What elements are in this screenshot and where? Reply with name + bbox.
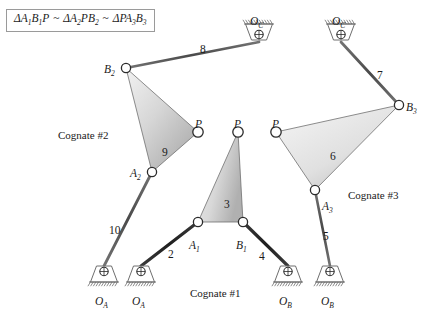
OB-right-hatch (333, 282, 336, 286)
OB-right-hatch (325, 282, 328, 286)
OB-right (314, 266, 345, 286)
OA-right-hatch (147, 282, 150, 286)
OA-right-hatch (149, 282, 152, 286)
OA-left-hatch (112, 282, 115, 286)
OB-right-hatch (314, 282, 317, 286)
joint-B2 (121, 63, 130, 72)
OB-right-hatch (322, 282, 325, 286)
OB-left-hatch (288, 282, 291, 286)
OB-left-hatch (272, 282, 275, 286)
OA-right-hatch (152, 282, 155, 286)
joint-A2-label: A2 (130, 168, 141, 182)
OA-left-hatch (110, 282, 113, 286)
OB-left-hatch (299, 282, 302, 286)
cognate-3-label: Cognate #3 (348, 190, 398, 201)
figure-canvas: ΔA1B1P ~ ΔA2PB2 ~ ΔPA3B3 2457810396OAOAO… (0, 0, 429, 315)
joint-B1 (238, 217, 247, 226)
joint-B2-label: B2 (104, 64, 115, 78)
OA-left-hatch (101, 282, 104, 286)
OB-left-hatch (275, 282, 278, 286)
similarity-formula: ΔA1B1P ~ ΔA2PB2 ~ ΔPA3B3 (6, 9, 155, 32)
joint-P2-label: P (195, 119, 202, 131)
link-5-label: 5 (323, 231, 329, 243)
OC-right-hatch (328, 20, 331, 24)
OB-right-hatch (338, 282, 341, 286)
OB-left-hatch (294, 282, 297, 286)
OA-right-label: OA (132, 296, 145, 310)
OA-left-hatch (91, 282, 94, 286)
OA-right-hatch (130, 282, 133, 286)
link-7-label: 7 (377, 70, 383, 82)
joint-B3 (394, 100, 403, 109)
link-7 (341, 42, 399, 105)
cognate-1-label: Cognate #1 (190, 288, 240, 299)
cognate-2-label: Cognate #2 (58, 130, 108, 141)
OA-left-label: OA (95, 296, 108, 310)
coupler-6 (276, 105, 399, 190)
OA-left-hatch (88, 282, 91, 286)
joint-P3-label: P (272, 119, 279, 131)
OB-right-hatch (336, 282, 339, 286)
OA-left-hatch (104, 282, 107, 286)
coupler-3-label: 3 (224, 199, 230, 211)
OA-left-hatch (99, 282, 102, 286)
OC-left-hatch (270, 20, 273, 24)
coupler-3 (198, 132, 243, 222)
OA-right-hatch (125, 282, 128, 286)
OA-right-hatch (141, 282, 144, 286)
OC-left-hatch (265, 20, 268, 24)
link-10 (104, 172, 152, 266)
OC-left-hatch (243, 20, 246, 24)
OA-left-hatch (96, 282, 99, 286)
OB-left-hatch (277, 282, 280, 286)
OC-right-hatch (325, 20, 328, 24)
OA-right-hatch (128, 282, 131, 286)
joint-A2 (147, 167, 156, 176)
OB-left-hatch (285, 282, 288, 286)
OA-right-hatch (136, 282, 139, 286)
OC-left-hatch (246, 20, 249, 24)
OB-left-label: OB (279, 296, 292, 310)
linkage-diagram (0, 0, 429, 315)
OB-left-hatch (291, 282, 294, 286)
coupler-9-label: 9 (162, 147, 168, 159)
OA-left-hatch (107, 282, 110, 286)
OB-right-label: OB (321, 296, 334, 310)
OB-left-hatch (283, 282, 286, 286)
OC-right-hatch (352, 20, 355, 24)
OC-right-label: OC (332, 16, 345, 30)
OC-right-hatch (347, 20, 350, 24)
link-4-label: 4 (259, 251, 265, 263)
OC-left-hatch (267, 20, 270, 24)
link-8 (126, 42, 259, 68)
OB-left-hatch (280, 282, 283, 286)
OA-right-hatch (144, 282, 147, 286)
coupler-6-label: 6 (330, 151, 336, 163)
joint-B3-label: B3 (406, 102, 417, 116)
OA-right-hatch (133, 282, 136, 286)
joint-B1-label: B1 (236, 240, 247, 254)
OB-right-hatch (327, 282, 330, 286)
link-2-label: 2 (168, 249, 174, 261)
link-10-label: 10 (109, 225, 121, 237)
OA-right-hatch (138, 282, 141, 286)
joint-A3 (310, 185, 319, 194)
link-4 (243, 222, 288, 266)
OA-right (125, 266, 156, 286)
OB-right-hatch (330, 282, 333, 286)
OA-left-hatch (115, 282, 118, 286)
joint-P1-label: P (234, 119, 241, 131)
OA-left (88, 266, 119, 286)
OB-right-hatch (319, 282, 322, 286)
OC-left-label: OC (250, 16, 263, 30)
formula-text: ΔA1B1P ~ ΔA2PB2 ~ ΔPA3B3 (14, 12, 147, 24)
OA-left-hatch (93, 282, 96, 286)
joint-A3-label: A3 (322, 201, 333, 215)
OC-right-hatch (349, 20, 352, 24)
joint-A1 (193, 217, 202, 226)
link-8-label: 8 (200, 44, 206, 56)
joint-A1-label: A1 (189, 240, 200, 254)
OB-right-hatch (317, 282, 320, 286)
OB-right-hatch (341, 282, 344, 286)
OB-left-hatch (296, 282, 299, 286)
